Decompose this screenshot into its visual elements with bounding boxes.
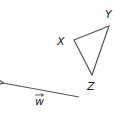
label-x: X [56,35,65,48]
label-w: w [35,95,44,108]
triangle-xyz [74,26,109,75]
translation-diagram: X Y Z w [0,0,122,117]
label-y: Y [105,8,113,21]
label-z: Z [86,80,95,93]
diagram-svg: X Y Z w [0,0,122,117]
